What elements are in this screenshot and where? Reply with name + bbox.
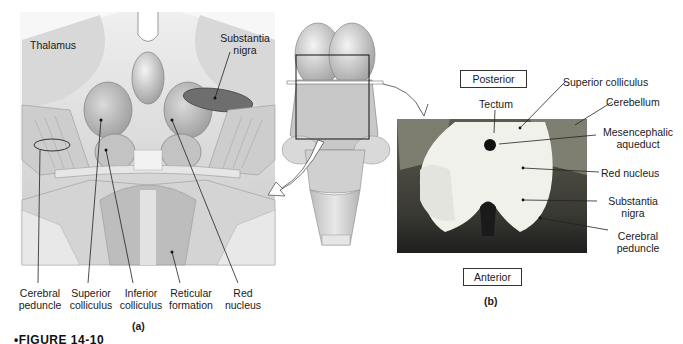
label-cerebral-peduncle-b-line1: Cerebral bbox=[606, 230, 670, 242]
label-tectum: Tectum bbox=[474, 98, 518, 110]
label-inferior-colliculus-line2: colliculus bbox=[113, 299, 169, 311]
label-cerebral-peduncle-a-line1: Cerebral bbox=[12, 287, 68, 299]
label-cerebellum: Cerebellum bbox=[606, 96, 660, 108]
label-superior-colliculus-a-line1: Superior bbox=[63, 287, 119, 299]
label-cerebral-peduncle-b-line2: peduncle bbox=[606, 242, 670, 254]
panel-b-letter: (b) bbox=[484, 295, 497, 307]
label-substantia-nigra-b-line2: nigra bbox=[598, 207, 668, 219]
label-inferior-colliculus-line1: Inferior bbox=[113, 287, 169, 299]
label-mesencephalic-aqueduct-line2: aqueduct bbox=[595, 138, 681, 150]
label-reticular-formation-line2: formation bbox=[163, 299, 219, 311]
label-substantia-nigra-a-line2: nigra bbox=[215, 44, 275, 56]
label-superior-colliculus-b: Superior colliculus bbox=[563, 76, 648, 88]
figure-caption: •FIGURE 14-10 bbox=[14, 333, 104, 344]
label-substantia-nigra-b-line1: Substantia bbox=[598, 195, 668, 207]
label-red-nucleus-a-line2: nucleus bbox=[218, 299, 268, 311]
orientation-posterior-box: Posterior bbox=[460, 70, 527, 88]
label-red-nucleus-b: Red nucleus bbox=[601, 167, 659, 179]
label-cerebral-peduncle-a-line2: peduncle bbox=[12, 299, 68, 311]
label-substantia-nigra-a-line1: Substantia bbox=[215, 32, 275, 44]
label-thalamus: Thalamus bbox=[30, 39, 76, 51]
panel-a-letter: (a) bbox=[132, 320, 145, 332]
label-superior-colliculus-a-line2: colliculus bbox=[63, 299, 119, 311]
label-reticular-formation-line1: Reticular bbox=[163, 287, 219, 299]
label-mesencephalic-aqueduct-line1: Mesencephalic bbox=[595, 126, 681, 138]
panel-b-photo bbox=[397, 119, 587, 253]
label-red-nucleus-a-line1: Red bbox=[218, 287, 268, 299]
orientation-anterior-box: Anterior bbox=[463, 268, 522, 286]
